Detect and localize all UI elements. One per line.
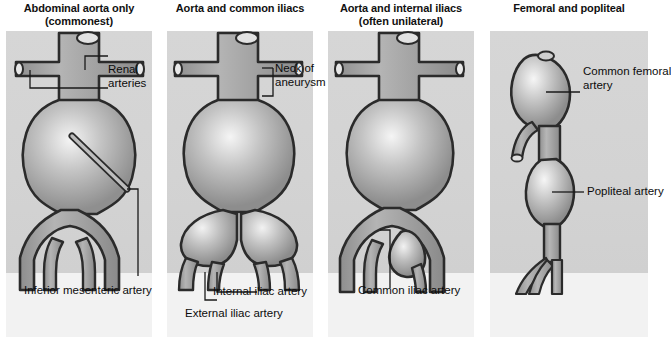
label-external-iliac-artery: External iliac artery: [185, 307, 283, 321]
panel-abdominal-aorta-only: Abdominal aorta only(commonest): [0, 0, 158, 346]
internal-iliac-aneurysm: [389, 231, 426, 292]
common-femoral-aneurysm: [511, 52, 570, 131]
label-popliteal-artery: Popliteal artery: [587, 185, 664, 199]
label-neck-of-aneurysm-line1: Neck of: [275, 62, 314, 74]
aortic-aneurysm-sac: [347, 100, 453, 210]
profunda-femoris-branch: [512, 122, 539, 162]
panel-femoral-and-popliteal: Femoral and popliteal: [484, 0, 654, 346]
label-internal-iliac-artery: Internal iliac artery: [213, 285, 307, 299]
aortic-aneurysm-sac: [184, 100, 294, 212]
panel-aorta-and-internal-iliacs: Aorta and internal iliacs(often unilater…: [322, 0, 480, 346]
popliteal-aneurysm: [526, 159, 574, 228]
iliac-bifurcation: [20, 210, 119, 290]
label-neck-of-aneurysm: Neck ofaneurysm: [275, 62, 326, 89]
aorta-trunk-and-renals: [335, 32, 464, 104]
label-neck-of-aneurysm-line2: aneurysm: [275, 76, 326, 88]
label-inferior-mesenteric-artery: Inferior mesenteric artery: [24, 284, 152, 298]
label-common-femoral-artery: Common femoralartery: [583, 65, 671, 92]
panel-4-artwork: [484, 0, 654, 346]
common-iliac-aneurysms: [181, 210, 297, 266]
abdominal-aortic-aneurysm-sac: [23, 100, 135, 214]
label-common-femoral-artery-line2: artery: [583, 79, 612, 91]
below-knee-trifurcation: [516, 224, 562, 294]
label-renal-arteries-line2: arteries: [108, 77, 146, 89]
label-common-iliac-artery: Common iliac artery: [358, 284, 460, 298]
panel-aorta-and-common-iliacs: Aorta and common iliacs: [161, 0, 319, 346]
label-renal-arteries-line1: Renal: [108, 63, 138, 75]
label-renal-arteries: Renalarteries: [108, 63, 146, 90]
label-common-femoral-artery-line1: Common femoral: [583, 65, 671, 77]
